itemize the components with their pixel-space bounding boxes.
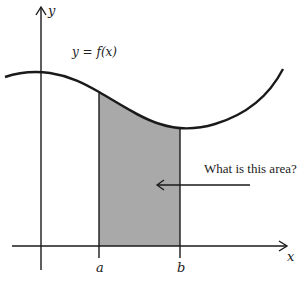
upper-bound-label: b xyxy=(177,260,185,275)
x-axis-label: x xyxy=(287,249,295,264)
question-label: What is this area? xyxy=(204,161,297,176)
lower-bound-label: a xyxy=(96,260,104,275)
area-under-curve-diagram: y y = f(x) What is this area? a b x xyxy=(0,0,300,283)
function-label: y = f(x) xyxy=(71,45,117,59)
y-axis-label: y xyxy=(47,3,56,18)
